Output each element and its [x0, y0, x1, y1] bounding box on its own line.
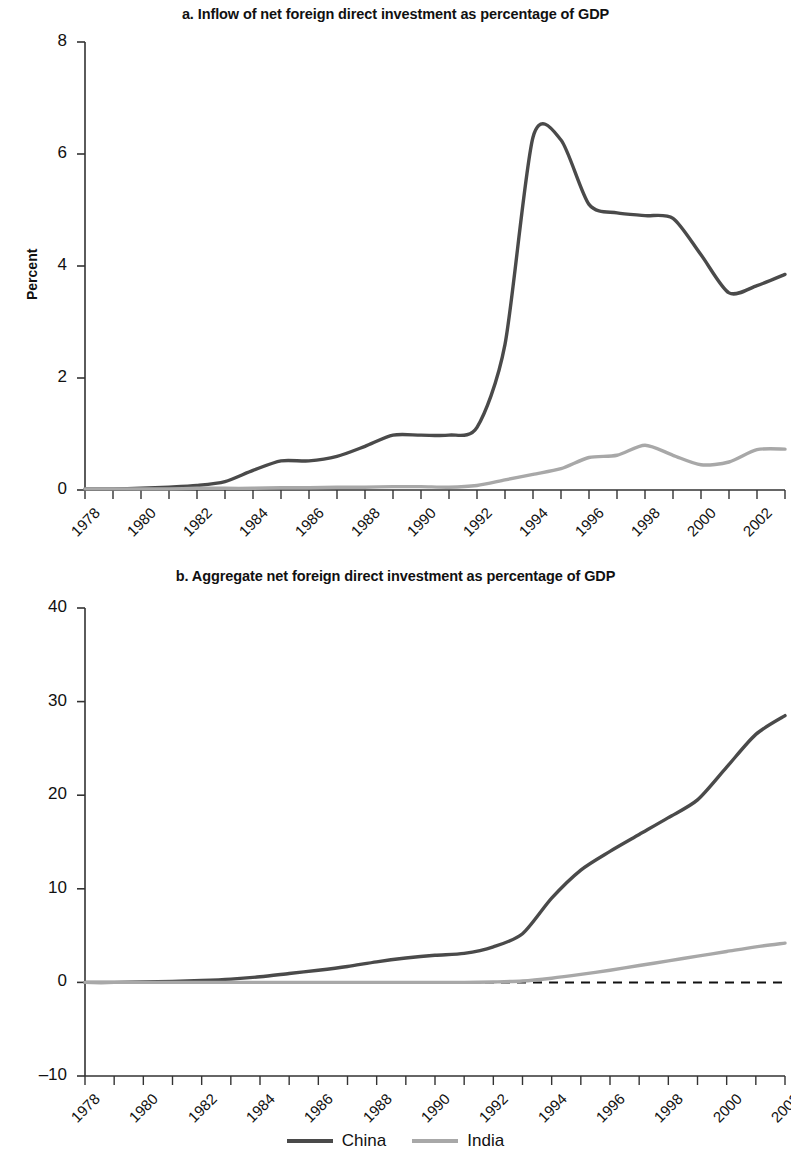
panel-a-title: a. Inflow of net foreign direct investme…: [0, 6, 791, 22]
panel-b-aggregate-chart: b. Aggregate net foreign direct investme…: [0, 560, 791, 1120]
legend-item-india: India: [412, 1131, 504, 1151]
x-tick-label: 1998: [623, 504, 663, 544]
y-tick-label: 6: [58, 143, 67, 163]
y-tick-label: 40: [48, 597, 67, 617]
y-tick-label: –10: [39, 1065, 67, 1085]
x-tick-label: 1982: [175, 504, 215, 544]
x-tick-label: 1978: [63, 504, 103, 544]
x-tick-label: 1990: [413, 1090, 453, 1130]
legend-label: India: [467, 1131, 504, 1151]
panel-b-title: b. Aggregate net foreign direct investme…: [0, 568, 791, 584]
x-tick-label: 1992: [455, 504, 495, 544]
x-tick-label: 1984: [231, 504, 271, 544]
x-tick-label: 1982: [179, 1090, 219, 1130]
series-line-china: [85, 124, 785, 489]
series-line-india: [85, 445, 785, 489]
fdi-comparison-figure: a. Inflow of net foreign direct investme…: [0, 0, 791, 1165]
x-tick-label: 1994: [511, 504, 551, 544]
panel-a-inflow-chart: a. Inflow of net foreign direct investme…: [0, 0, 791, 560]
x-tick-label: 1994: [529, 1090, 569, 1130]
x-tick-label: 1978: [63, 1090, 103, 1130]
series-line-china: [85, 716, 785, 983]
panel-a-plot-area: 0246819781980198219841986198819901992199…: [85, 42, 785, 490]
y-tick-label: 10: [48, 878, 67, 898]
panel-b-plot-area: –100102030401978198019821984198619881990…: [85, 608, 785, 1076]
y-tick-label: 8: [58, 31, 67, 51]
x-tick-label: 1984: [238, 1090, 278, 1130]
legend-swatch-india: [412, 1139, 458, 1143]
series-line-india: [85, 943, 785, 982]
x-tick-label: 2000: [704, 1090, 744, 1130]
x-tick-label: 1986: [296, 1090, 336, 1130]
x-tick-label: 1988: [354, 1090, 394, 1130]
x-tick-label: 1996: [567, 504, 607, 544]
x-tick-label: 1996: [588, 1090, 628, 1130]
legend-label: China: [342, 1131, 386, 1151]
y-tick-label: 0: [58, 971, 67, 991]
x-tick-label: 1988: [343, 504, 383, 544]
x-tick-label: 1980: [121, 1090, 161, 1130]
x-tick-label: 1980: [119, 504, 159, 544]
legend-item-china: China: [287, 1131, 386, 1151]
y-tick-label: 2: [58, 367, 67, 387]
x-tick-label: 1992: [471, 1090, 511, 1130]
y-tick-label: 20: [48, 784, 67, 804]
x-tick-label: 2000: [679, 504, 719, 544]
figure-legend: ChinaIndia: [0, 1131, 791, 1151]
y-tick-label: 0: [58, 479, 67, 499]
panel-a-y-axis-label: Percent: [24, 249, 40, 300]
legend-swatch-china: [287, 1139, 333, 1143]
y-tick-label: 30: [48, 691, 67, 711]
x-tick-label: 1998: [646, 1090, 686, 1130]
y-tick-label: 4: [58, 255, 67, 275]
x-tick-label: 2002: [763, 1090, 791, 1130]
x-tick-label: 2002: [735, 504, 775, 544]
x-tick-label: 1986: [287, 504, 327, 544]
x-tick-label: 1990: [399, 504, 439, 544]
